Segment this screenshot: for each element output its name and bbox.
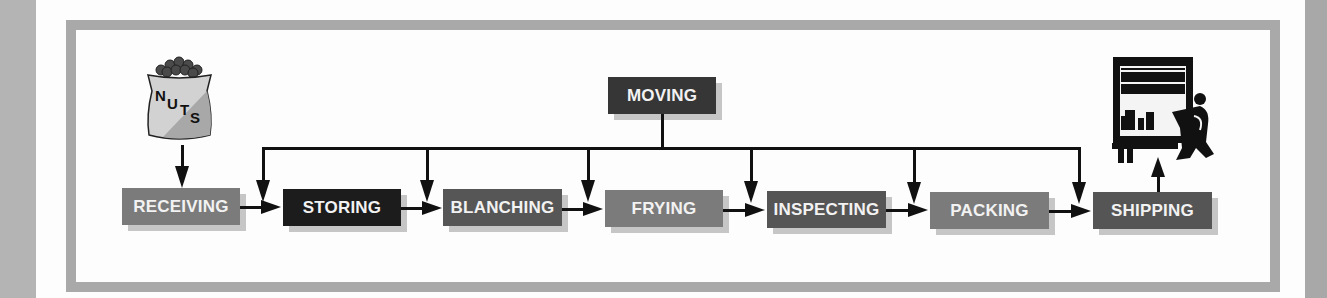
step-inspecting: INSPECTING xyxy=(767,191,886,228)
connector-line xyxy=(426,147,429,182)
arrow-right-icon xyxy=(1071,204,1091,218)
svg-text:S: S xyxy=(190,109,200,126)
arrow-down-icon xyxy=(907,182,921,204)
nuts-bag-icon: N U T S xyxy=(143,55,215,145)
arrow-down-icon xyxy=(420,180,434,202)
svg-text:T: T xyxy=(180,101,189,118)
step-receiving: RECEIVING xyxy=(122,188,240,225)
arrow-down-icon xyxy=(744,181,758,203)
bag-letter-n: N xyxy=(155,87,166,104)
arrow-down-icon xyxy=(256,180,270,202)
step-blanching: BLANCHING xyxy=(443,189,562,226)
connector-line xyxy=(1078,147,1081,183)
arrow-down-icon xyxy=(581,180,595,202)
distribution-bus-line xyxy=(262,147,1081,150)
connector-line xyxy=(661,114,664,149)
arrow-right-icon xyxy=(583,202,603,216)
connector-line xyxy=(401,207,423,210)
connector-line xyxy=(562,208,584,211)
step-packing: PACKING xyxy=(930,192,1049,229)
arrow-down-icon xyxy=(1072,182,1086,204)
connector-line xyxy=(240,206,262,209)
diagram-frame xyxy=(66,20,1280,292)
truck-loading-icon xyxy=(1110,54,1220,166)
left-margin-strip xyxy=(0,0,36,298)
connector-line xyxy=(750,147,753,183)
arrow-right-icon xyxy=(261,200,281,214)
svg-text:U: U xyxy=(167,95,178,112)
step-shipping: SHIPPING xyxy=(1093,192,1212,229)
arrow-right-icon xyxy=(422,201,442,215)
connector-line xyxy=(913,147,916,183)
step-storing: STORING xyxy=(283,189,401,226)
connector-line xyxy=(587,147,590,182)
connector-line xyxy=(886,209,909,212)
step-frying: FRYING xyxy=(605,190,723,227)
arrow-right-icon xyxy=(745,203,765,217)
connector-line xyxy=(262,147,265,182)
right-margin-strip xyxy=(1305,0,1327,298)
connector-line xyxy=(723,209,746,212)
connector-line xyxy=(1049,210,1072,213)
arrow-down-icon xyxy=(175,166,189,188)
arrow-right-icon xyxy=(908,203,928,217)
step-moving: MOVING xyxy=(608,77,716,114)
